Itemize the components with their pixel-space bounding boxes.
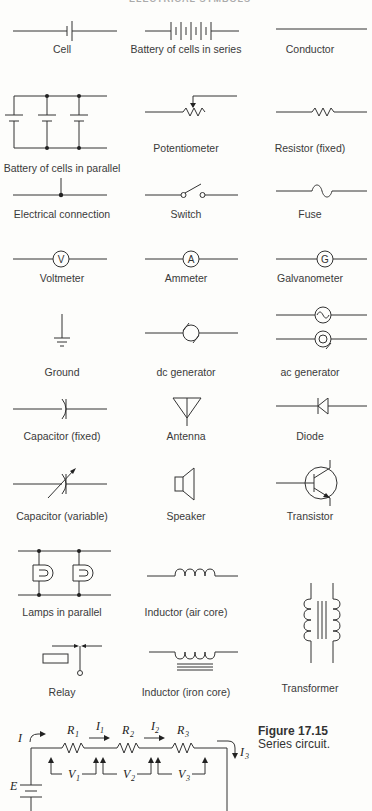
- svg-text:E: E: [9, 779, 18, 793]
- symbol-label: Capacitor (variable): [0, 510, 124, 522]
- svg-text:V: V: [58, 254, 65, 265]
- symbol-label: dc generator: [124, 366, 248, 378]
- svg-text:2: 2: [155, 726, 159, 735]
- symbol-label: Transistor: [248, 510, 372, 522]
- symbol-label: Inductor (iron core): [124, 686, 248, 698]
- svg-text:A: A: [188, 254, 195, 265]
- potentiometer-symbol: [145, 90, 240, 120]
- antenna-symbol: [170, 396, 204, 428]
- series-circuit-diagram: I E R1 R2 R3 I1 I2 I3 V1 V2 V3: [0, 712, 250, 811]
- symbol-label: Potentiometer: [124, 142, 248, 154]
- symbol-label: Voltmeter: [0, 272, 124, 284]
- svg-text:3: 3: [185, 774, 190, 783]
- galvanometer-symbol: G: [274, 248, 369, 270]
- svg-text:2: 2: [130, 730, 134, 739]
- symbol-label: Ground: [0, 366, 124, 378]
- symbol-label: Galvanometer: [248, 272, 372, 284]
- dc-generator-symbol: [145, 320, 240, 346]
- capacitor-variable-symbol: [10, 466, 110, 500]
- voltmeter-symbol: V: [10, 248, 110, 270]
- symbol-label: Lamps in parallel: [0, 606, 124, 618]
- symbol-label: Switch: [124, 208, 248, 220]
- battery-series-symbol: [145, 20, 240, 42]
- symbol-label: Transformer: [248, 682, 372, 694]
- ground-symbol: [50, 314, 74, 348]
- conductor-symbol: [274, 20, 369, 42]
- symbol-label: Capacitor (fixed): [0, 430, 124, 442]
- symbol-label: Conductor: [248, 43, 372, 55]
- relay-symbol: [40, 642, 105, 678]
- speaker-symbol: [172, 466, 202, 502]
- symbol-label: Electrical connection: [0, 208, 124, 220]
- switch-symbol: [145, 182, 240, 200]
- inductor-iron-symbol: [145, 648, 240, 674]
- battery-parallel-symbol: [2, 92, 112, 154]
- ammeter-symbol: A: [145, 248, 240, 270]
- symbol-label: Diode: [248, 430, 372, 442]
- symbol-label: Fuse: [248, 208, 372, 220]
- svg-text:2: 2: [131, 774, 135, 783]
- symbol-label: Cell: [0, 43, 124, 55]
- diode-symbol: [274, 398, 369, 420]
- resistor-symbol: [274, 104, 369, 120]
- svg-text:R: R: [121, 723, 130, 737]
- symbol-label: Battery of cells in parallel: [0, 162, 124, 174]
- transistor-symbol: [274, 458, 369, 508]
- symbol-label: Battery of cells in series: [124, 43, 248, 55]
- symbol-label: Speaker: [124, 510, 248, 522]
- lamps-parallel-symbol: [15, 545, 115, 601]
- svg-text:1: 1: [76, 774, 80, 783]
- symbol-label: Ammeter: [124, 272, 248, 284]
- svg-text:R: R: [66, 723, 75, 737]
- inductor-air-symbol: [145, 566, 240, 582]
- cell-symbol: [10, 20, 120, 42]
- svg-text:G: G: [321, 254, 329, 265]
- capacitor-fixed-symbol: [10, 398, 110, 420]
- electrical-connection-symbol: [10, 178, 110, 200]
- transformer-symbol: [300, 583, 344, 663]
- symbol-label: ac generator: [248, 366, 372, 378]
- svg-text:1: 1: [100, 726, 104, 735]
- symbol-label: Antenna: [124, 430, 248, 442]
- symbol-label: Relay: [0, 686, 124, 698]
- symbol-label: Inductor (air core): [124, 606, 248, 618]
- svg-text:I: I: [17, 731, 23, 745]
- svg-text:3: 3: [184, 730, 189, 739]
- ac-generator-symbol: [274, 304, 369, 352]
- page-header: ELECTRICAL SYMBOLS: [120, 0, 260, 4]
- fuse-symbol: [274, 182, 369, 200]
- svg-text:1: 1: [75, 730, 79, 739]
- figure-number: Figure 17.15: [258, 724, 328, 738]
- figure-caption: Series circuit.: [258, 737, 330, 751]
- svg-text:R: R: [176, 723, 185, 737]
- symbol-label: Resistor (fixed): [248, 142, 372, 154]
- svg-text:3: 3: [244, 752, 249, 761]
